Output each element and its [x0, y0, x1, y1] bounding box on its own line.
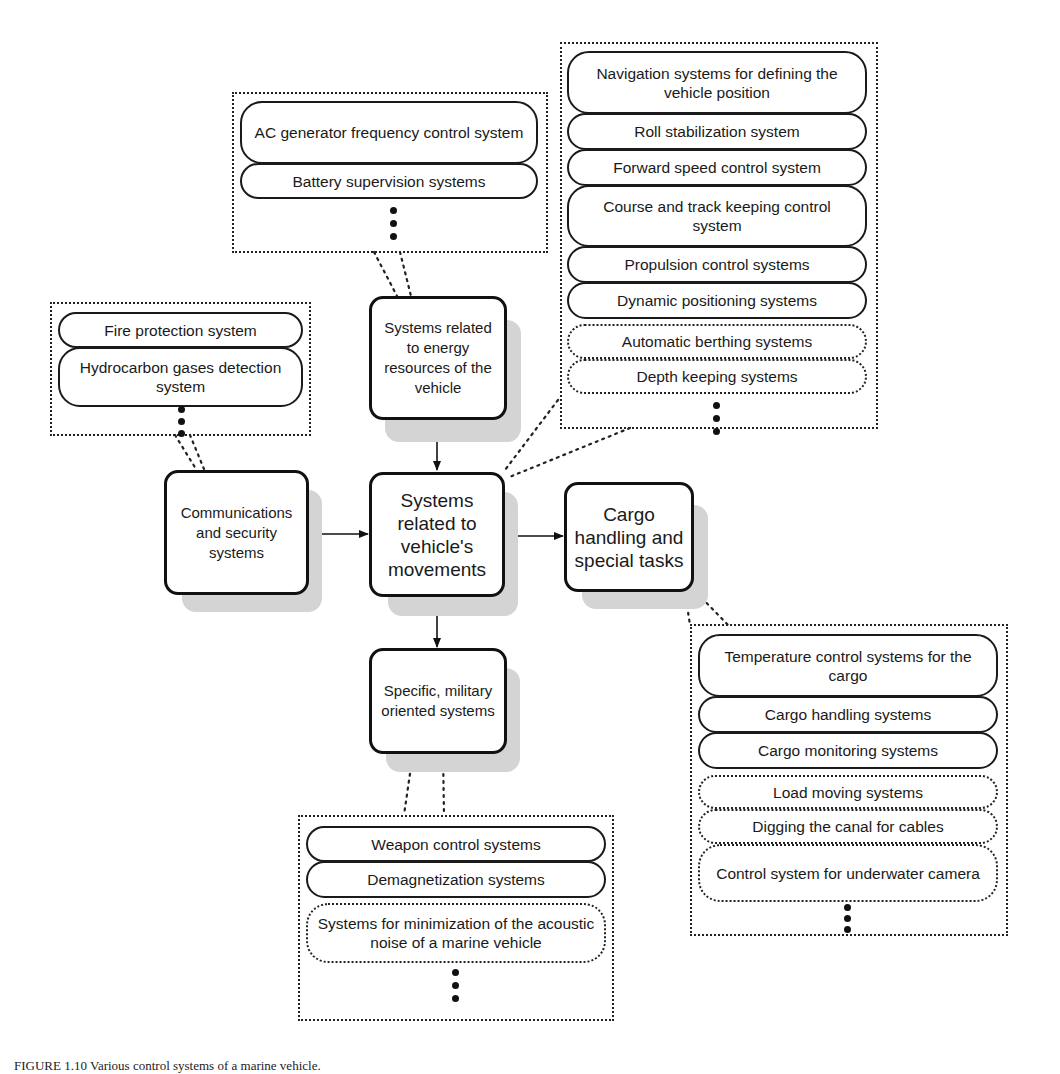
- subsystem-course-track-keeping[interactable]: Course and track keeping control system: [567, 185, 867, 247]
- more-ellipsis-icon: [713, 402, 721, 441]
- more-ellipsis-icon: [390, 207, 398, 246]
- subsystem-cargo-handling[interactable]: Cargo handling systems: [698, 696, 998, 733]
- subsystem-acoustic-noise-minimization[interactable]: Systems for minimization of the acoustic…: [306, 903, 606, 963]
- subsystem-load-moving[interactable]: Load moving systems: [698, 775, 998, 809]
- more-ellipsis-icon: [178, 406, 186, 443]
- subsystem-propulsion-control[interactable]: Propulsion control systems: [567, 246, 867, 283]
- subsystem-dynamic-positioning[interactable]: Dynamic positioning systems: [567, 282, 867, 319]
- subsystem-depth-keeping[interactable]: Depth keeping systems: [567, 359, 867, 394]
- more-ellipsis-icon: [452, 969, 460, 1008]
- node-communications-security[interactable]: Communications and security systems: [164, 470, 309, 595]
- subsystem-roll-stabilization[interactable]: Roll stabilization system: [567, 113, 867, 150]
- subsystem-cargo-monitoring[interactable]: Cargo monitoring systems: [698, 732, 998, 769]
- node-central-vehicle-movements[interactable]: Systems related to vehicle's movements: [369, 472, 505, 597]
- subsystem-navigation[interactable]: Navigation systems for defining the vehi…: [567, 51, 867, 114]
- subsystem-battery-supervision[interactable]: Battery supervision systems: [240, 163, 538, 199]
- node-cargo-special-tasks[interactable]: Cargo handling and special tasks: [564, 482, 694, 592]
- more-ellipsis-icon: [844, 904, 852, 939]
- subsystem-digging-canal[interactable]: Digging the canal for cables: [698, 809, 998, 844]
- subsystem-fire-protection[interactable]: Fire protection system: [58, 312, 303, 348]
- subsystem-hydrocarbon-detection[interactable]: Hydrocarbon gases detection system: [58, 347, 303, 407]
- node-military-oriented[interactable]: Specific, military oriented systems: [369, 648, 507, 754]
- figure-caption: FIGURE 1.10 Various control systems of a…: [14, 1058, 321, 1074]
- subsystem-automatic-berthing[interactable]: Automatic berthing systems: [567, 324, 867, 359]
- subsystem-weapon-control[interactable]: Weapon control systems: [306, 826, 606, 862]
- subsystem-forward-speed[interactable]: Forward speed control system: [567, 149, 867, 186]
- subsystem-underwater-camera[interactable]: Control system for underwater camera: [698, 844, 998, 902]
- subsystem-cargo-temperature[interactable]: Temperature control systems for the carg…: [698, 634, 998, 697]
- subsystem-ac-generator[interactable]: AC generator frequency control system: [240, 101, 538, 164]
- subsystem-demagnetization[interactable]: Demagnetization systems: [306, 861, 606, 898]
- node-energy-resources[interactable]: Systems related to energy resources of t…: [369, 296, 507, 420]
